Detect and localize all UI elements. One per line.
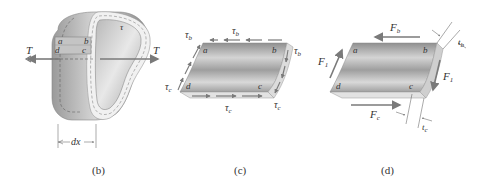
torque-label-left: T (26, 44, 33, 56)
corner-c: c (258, 81, 262, 91)
label-force-1-right: F1 (442, 70, 453, 84)
corner-c: c (82, 45, 86, 55)
panel-b: T T τ a b c d dx (b) (26, 12, 160, 177)
dimension-dx: dx (71, 136, 81, 147)
element-plate (330, 43, 437, 92)
label-force-b: Fb (389, 21, 401, 35)
torque-label-right: T (153, 44, 160, 56)
torsion-shear-flow-figure: T T τ a b c d dx (b) (0, 0, 489, 183)
label-tau-b-top: τb (232, 25, 240, 38)
caption-d: (d) (381, 164, 394, 177)
label-thickness-b: tb (458, 37, 465, 49)
thickness-c-dimension (396, 94, 432, 128)
corner-b: b (423, 45, 428, 55)
corner-a: a (203, 45, 208, 55)
caption-c: (c) (234, 164, 247, 177)
label-tau-b-right: τb (294, 45, 302, 58)
plate-edge-bottom (180, 92, 274, 98)
label-tau-c-bottom: τc (225, 102, 233, 115)
element-plate (180, 43, 287, 92)
label-tau-b-left: τb (185, 29, 193, 42)
label-tau-c-left: τc (165, 81, 173, 94)
panel-c: τb τb τb τc τc τc a b c d (c) (165, 25, 302, 177)
corner-d: d (55, 45, 60, 55)
label-force-1-left: F1 (317, 55, 328, 69)
corner-b: b (272, 45, 277, 55)
corner-d: d (336, 81, 341, 91)
label-tau-c-right: τc (274, 99, 282, 112)
panel-d: Fb F1 F1 Fc tb tc a b c d (d) (317, 21, 466, 177)
corner-c: c (409, 81, 413, 91)
label-force-c: Fc (369, 108, 381, 122)
label-thickness-c: tc (422, 122, 429, 134)
corner-d: d (186, 81, 191, 91)
corner-a: a (353, 45, 358, 55)
caption-b: (b) (92, 164, 105, 177)
